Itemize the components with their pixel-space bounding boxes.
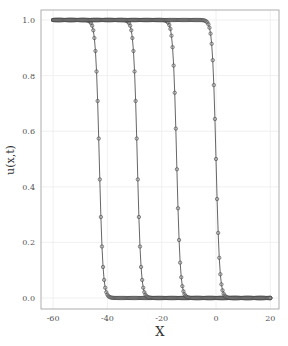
data-point-marker	[133, 70, 136, 73]
grid-lines	[41, 10, 279, 309]
data-point-marker	[212, 83, 215, 86]
data-point-marker	[137, 215, 140, 218]
data-point-marker	[176, 207, 179, 210]
data-point-marker	[169, 27, 172, 30]
data-point-marker	[92, 29, 95, 32]
data-point-marker	[211, 58, 214, 61]
y-tick-label: 0.8	[22, 72, 35, 81]
x-tick-label: -60	[47, 314, 60, 323]
x-tick-label: 0	[213, 314, 218, 323]
data-point-marker	[140, 278, 143, 281]
data-point-marker	[101, 265, 104, 268]
data-point-marker	[90, 24, 93, 27]
y-tick-label: 0.4	[22, 183, 35, 192]
data-point-marker	[139, 265, 142, 268]
y-tick-label: 0.2	[22, 238, 35, 247]
data-point-marker	[216, 231, 219, 234]
data-point-marker	[168, 23, 171, 26]
data-point-marker	[221, 289, 224, 292]
x-axis-ticks: -60-40-20020	[47, 314, 276, 323]
data-point-marker	[129, 24, 132, 27]
x-tick-label: -40	[101, 314, 114, 323]
data-point-marker	[142, 286, 145, 289]
data-point-marker	[181, 284, 184, 287]
data-point-marker	[177, 238, 180, 241]
data-point-marker	[95, 70, 98, 73]
data-point-marker	[96, 99, 99, 102]
data-point-marker	[173, 91, 176, 94]
x-tick-label: -20	[155, 314, 168, 323]
y-axis-ticks: 0.00.20.40.60.81.0	[22, 16, 35, 303]
data-point-marker	[94, 49, 97, 52]
data-point-marker	[213, 117, 216, 120]
data-point-marker	[170, 34, 173, 37]
data-point-marker	[219, 273, 222, 276]
x-tick-label: 20	[265, 314, 275, 323]
data-point-marker	[104, 286, 107, 289]
data-point-marker	[174, 127, 177, 130]
data-point-marker	[99, 215, 102, 218]
data-point-marker	[209, 32, 212, 35]
data-point-marker	[131, 36, 134, 39]
data-point-marker	[93, 36, 96, 39]
data-point-marker	[175, 168, 178, 171]
data-point-marker	[220, 283, 223, 286]
data-point-marker	[102, 278, 105, 281]
data-point-marker	[134, 99, 137, 102]
y-tick-label: 1.0	[22, 16, 35, 25]
y-tick-label: 0.6	[22, 127, 35, 136]
data-point-marker	[130, 29, 133, 32]
data-point-marker	[207, 23, 210, 26]
data-point-marker	[180, 276, 183, 279]
data-point-marker	[269, 296, 272, 299]
data-point-marker	[98, 178, 101, 181]
x-axis-label: X	[155, 324, 165, 339]
data-point-marker	[178, 261, 181, 264]
data-point-marker	[208, 26, 211, 29]
data-point-marker	[171, 45, 174, 48]
data-point-marker	[210, 42, 213, 45]
data-point-marker	[100, 245, 103, 248]
data-point-marker	[135, 137, 138, 140]
data-point-marker	[97, 137, 100, 140]
data-point-marker	[172, 64, 175, 67]
data-point-marker	[136, 178, 139, 181]
y-tick-label: 0.0	[22, 294, 35, 303]
data-point-marker	[138, 245, 141, 248]
data-point-marker	[218, 256, 221, 259]
y-axis-label: u(x,t)	[4, 145, 17, 175]
data-point-marker	[132, 49, 135, 52]
chart: -60-40-20020 0.00.20.40.60.81.0 X u(x,t)	[0, 0, 288, 346]
plot-frame	[41, 10, 279, 309]
data-point-marker	[215, 197, 218, 200]
data-point-marker	[214, 157, 217, 160]
